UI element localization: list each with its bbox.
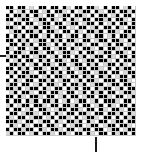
y-axis-tick [0, 55, 6, 57]
matrix-figure [0, 0, 144, 155]
heatmap-cell [132, 132, 136, 136]
heatmap-grid [6, 6, 136, 136]
x-axis-tick [95, 137, 97, 152]
